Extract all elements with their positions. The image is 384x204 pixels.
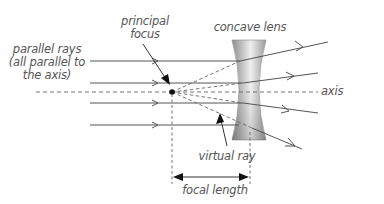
principal-focus-line2: focus <box>110 28 180 41</box>
parallel-rays-label: parallel rays (all parallel to the axis) <box>4 43 90 82</box>
principal-focus-dot <box>169 89 175 95</box>
principal-focus-label: principal focus <box>110 15 180 41</box>
principal-focus-pointer <box>143 44 170 85</box>
parallel-rays-line3: the axis) <box>4 69 90 82</box>
focal-length-arrow <box>173 173 249 181</box>
focal-length-label: focal length <box>176 184 254 197</box>
concave-lens-label: concave lens <box>210 21 290 34</box>
concave-lens-diagram <box>0 0 384 204</box>
axis-label: axis <box>321 85 343 98</box>
virtual-ray-pointer <box>216 113 227 146</box>
virtual-ray-label: virtual ray <box>187 150 267 163</box>
